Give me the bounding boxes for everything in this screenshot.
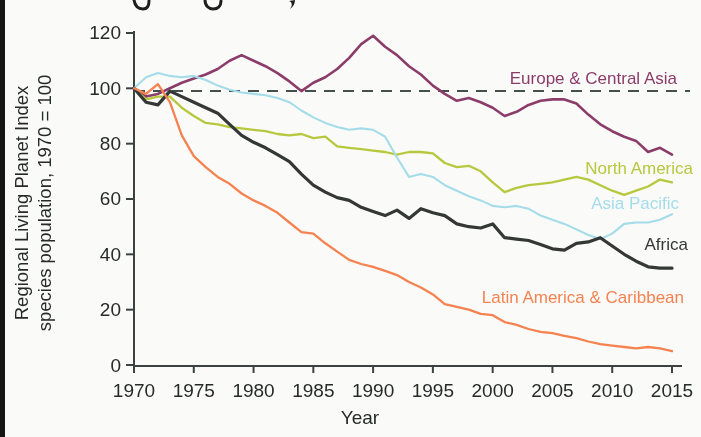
y-tick-label: 40: [100, 244, 121, 265]
x-tick-label: 1970: [113, 380, 155, 401]
x-tick-label: 1975: [173, 380, 215, 401]
x-tick-label: 1980: [232, 380, 274, 401]
y-tick-label: 0: [110, 355, 121, 376]
series-label-north-america: North America: [585, 159, 693, 178]
series-label-latin-america-caribbean: Latin America & Caribbean: [482, 288, 684, 307]
x-axis-title: Year: [341, 407, 380, 428]
x-tick-label: 1985: [292, 380, 334, 401]
y-axis-title-line1: Regional Living Planet Index: [11, 85, 32, 320]
series-line-africa: [134, 88, 672, 268]
y-tick-label: 60: [100, 188, 121, 209]
cropped-title-fragments: [134, 0, 295, 9]
cropped-title-fragment-g: [205, 0, 221, 9]
series-line-europe-central-asia: [134, 36, 672, 155]
series-label-africa: Africa: [645, 235, 689, 254]
series-label-europe-central-asia: Europe & Central Asia: [510, 69, 678, 88]
y-tick-label: 20: [100, 299, 121, 320]
y-tick-label: 120: [89, 22, 121, 43]
series-label-asia-pacific: Asia Pacific: [591, 194, 679, 213]
x-tick-label: 1990: [352, 380, 394, 401]
regional-lpi-line-chart: 0204060801001201970197519801985199019952…: [0, 0, 701, 437]
x-tick-label: 1995: [412, 380, 454, 401]
chart-figure: 0204060801001201970197519801985199019952…: [0, 0, 701, 437]
cropped-title-fragment-y: [134, 0, 149, 9]
y-tick-label: 80: [100, 133, 121, 154]
y-tick-label: 100: [89, 78, 121, 99]
x-tick-label: 2000: [472, 380, 514, 401]
x-tick-label: 2010: [591, 380, 633, 401]
x-tick-label: 2015: [651, 380, 693, 401]
cropped-title-fragment-comma: [289, 0, 295, 9]
x-tick-label: 2005: [531, 380, 573, 401]
series-line-north-america: [134, 88, 672, 195]
y-axis-title-line2: species population, 1970 = 100: [34, 75, 55, 332]
